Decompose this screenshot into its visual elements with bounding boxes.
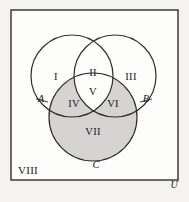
- region-label-I: I: [54, 71, 58, 82]
- universal-set-label: U: [170, 179, 178, 190]
- region-label-VII: VII: [85, 126, 101, 137]
- venn-diagram-canvas: I II III IV V VI VII VIII A B C U: [0, 0, 189, 202]
- set-label-b: B: [143, 93, 150, 104]
- region-label-II: II: [89, 67, 97, 78]
- region-label-VIII: VIII: [18, 164, 38, 176]
- venn-diagram-figure: I II III IV V VI VII VIII A B C U: [0, 0, 189, 202]
- set-label-c: C: [92, 159, 100, 170]
- region-label-IV: IV: [68, 98, 80, 109]
- region-label-V: V: [89, 86, 97, 97]
- region-label-VI: VI: [107, 98, 119, 109]
- set-label-a: A: [37, 93, 45, 104]
- region-label-III: III: [125, 71, 137, 82]
